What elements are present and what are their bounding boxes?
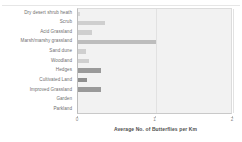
value-axis-ticks: 012 [77, 116, 234, 125]
bar [78, 68, 101, 72]
category-label: Dry desert shrub heath [0, 8, 75, 18]
category-label: Marsh/marshy grassland [0, 37, 75, 47]
bars-container [78, 9, 231, 113]
tick-label: 1 [153, 118, 156, 123]
gridline [233, 9, 234, 113]
bar-chart: Dry desert shrub heath Scrub Acid Grassl… [0, 0, 242, 142]
category-label: Garden [0, 95, 75, 105]
bar [78, 40, 156, 44]
bar-row [78, 75, 231, 84]
bar [78, 49, 86, 53]
bar [78, 30, 92, 34]
bar-row [78, 94, 231, 103]
bar-row [78, 9, 231, 18]
tick-label: 2 [231, 118, 234, 123]
bar-row [78, 47, 231, 56]
bar-row [78, 28, 231, 37]
category-label: Parkland [0, 104, 75, 114]
category-label: Sand dune [0, 47, 75, 57]
bar-row [78, 104, 231, 113]
category-label: Improved Grassland [0, 85, 75, 95]
category-label: Woodland [0, 56, 75, 66]
category-label: Cultivated Land [0, 75, 75, 85]
top-divider [2, 5, 240, 6]
tick-label: 0 [76, 118, 79, 123]
category-label: Hedges [0, 66, 75, 76]
bar-row [78, 37, 231, 46]
category-label: Acid Grassland [0, 27, 75, 37]
bar [78, 21, 105, 25]
category-axis-labels: Dry desert shrub heath Scrub Acid Grassl… [0, 8, 75, 114]
category-label: Scrub [0, 18, 75, 28]
bar-row [78, 18, 231, 27]
bar-row [78, 85, 231, 94]
bar [78, 59, 89, 63]
bar-row [78, 66, 231, 75]
bar [78, 87, 101, 91]
bar [78, 12, 80, 16]
chart-plot-wrapper: Dry desert shrub heath Scrub Acid Grassl… [0, 8, 242, 120]
bar-row [78, 56, 231, 65]
bar [78, 78, 87, 82]
x-axis-title: Average No. of Butterflies per Km [77, 126, 234, 132]
plot-area [77, 8, 232, 114]
